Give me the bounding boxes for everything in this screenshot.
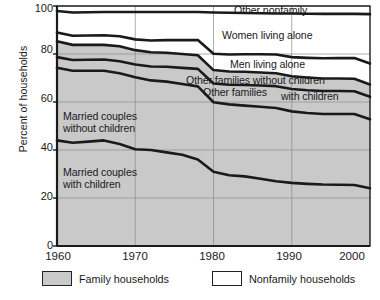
legend-item-family: Family households bbox=[42, 271, 169, 286]
family-swatch-icon bbox=[42, 271, 72, 286]
legend-label-family: Family households bbox=[79, 273, 169, 285]
series-label-married-without-children-line1: Married couples bbox=[63, 110, 137, 122]
legend-item-nonfamily: Nonfamily households bbox=[212, 271, 355, 286]
series-label-women-living-alone: Women living alone bbox=[222, 29, 312, 41]
series-label-other-nonfamily: Other nonfamily bbox=[234, 4, 307, 16]
plot-canvas bbox=[0, 0, 380, 300]
series-label-married-with-children-line1: Married couples bbox=[63, 166, 137, 178]
household-composition-chart: Percent of households 100 80 60 40 20 0 … bbox=[0, 0, 380, 300]
series-label-other-families-with-children-line1: Other families bbox=[203, 86, 267, 98]
legend: Family households Nonfamily households bbox=[0, 268, 380, 292]
series-label-other-families-with-children-line2: with children bbox=[281, 90, 339, 102]
legend-label-nonfamily: Nonfamily households bbox=[249, 273, 355, 285]
series-label-married-without-children-line2: without children bbox=[63, 122, 135, 134]
series-label-married-with-children-line2: with children bbox=[63, 178, 121, 190]
series-label-men-living-alone: Men living alone bbox=[230, 58, 305, 70]
nonfamily-swatch-icon bbox=[212, 271, 242, 286]
series-label-other-families-without-children: Other families without children bbox=[186, 74, 325, 86]
